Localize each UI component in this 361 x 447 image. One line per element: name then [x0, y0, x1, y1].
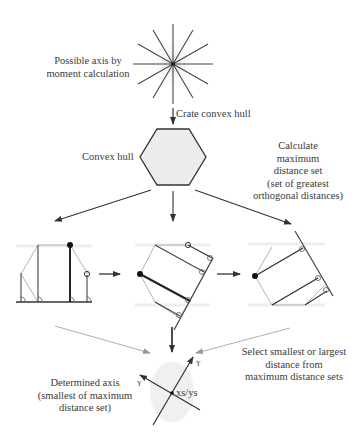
possible-axis-label: Possible axis by moment calculation: [38, 55, 138, 80]
label-line: distance set): [30, 402, 140, 415]
label-line: Select smallest or largest: [228, 346, 360, 359]
arrow-to-left-panel: [55, 190, 151, 221]
label-line: (set of greatest: [238, 178, 358, 191]
label-line: distance from: [228, 359, 360, 372]
starburst-axes-icon: [133, 24, 213, 104]
left-panel-distances: [16, 242, 92, 302]
convex-hull-label: Convex hull: [82, 151, 134, 164]
label-line: Determined axis: [30, 377, 140, 390]
label-line: distance set: [238, 165, 358, 178]
label-line: (smallest of maximum: [30, 390, 140, 403]
label-line: moment calculation: [38, 68, 138, 81]
label-line: Possible axis by: [38, 55, 138, 68]
label-line: maximum distance sets: [228, 371, 360, 384]
label-line: orthogonal distances): [238, 190, 358, 203]
middle-panel-distances: [135, 242, 213, 330]
select-distance-label: Select smallest or largest distance from…: [228, 346, 360, 384]
label-line: maximum: [238, 153, 358, 166]
label-line: Calculate: [238, 140, 358, 153]
calculate-max-distance-label: Calculate maximum distance set (set of g…: [238, 140, 358, 203]
arrow-left-to-result: [55, 326, 150, 353]
svg-text:Y: Y: [195, 360, 201, 368]
right-panel-distances: [248, 231, 333, 305]
create-hull-label: Crate convex hull: [176, 108, 251, 121]
convex-hull-hexagon: [140, 129, 206, 185]
determined-axis-label: Determined axis (smallest of maximum dis…: [30, 377, 140, 415]
centroid-label: xs/ys: [176, 387, 198, 400]
